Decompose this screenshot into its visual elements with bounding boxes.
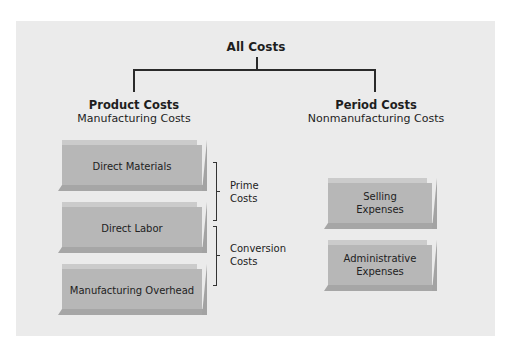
box-label: Selling Expenses — [328, 190, 432, 216]
box-administrative-expenses: Administrative Expenses — [328, 245, 432, 291]
box-selling-expenses: Selling Expenses — [328, 183, 432, 229]
period-costs-title: Period Costs — [335, 98, 417, 112]
brace-tick — [213, 220, 216, 221]
box-bevel — [324, 223, 437, 229]
tree-horizontal-connector — [133, 69, 376, 71]
root-label: All Costs — [227, 40, 286, 54]
box-bevel — [58, 185, 207, 191]
box-manufacturing-overhead: Manufacturing Overhead — [62, 269, 202, 315]
prime-costs-label: Prime Costs — [230, 179, 259, 205]
conversion-costs-label: Conversion Costs — [230, 242, 286, 268]
brace-tick — [213, 226, 216, 227]
period-costs-subtitle: Nonmanufacturing Costs — [308, 112, 445, 125]
box-label: Direct Materials — [62, 160, 202, 173]
brace-point — [217, 191, 220, 192]
box-label: Administrative Expenses — [328, 252, 432, 278]
brace-point — [217, 255, 220, 256]
box-label: Direct Labor — [62, 222, 202, 235]
box-direct-labor: Direct Labor — [62, 207, 202, 253]
box-direct-materials: Direct Materials — [62, 145, 202, 191]
conversion-costs-brace — [216, 226, 217, 286]
product-costs-title: Product Costs — [89, 98, 179, 112]
product-costs-subtitle: Manufacturing Costs — [77, 112, 190, 125]
box-bevel — [324, 285, 437, 291]
box-label: Manufacturing Overhead — [62, 284, 202, 297]
box-bevel — [58, 309, 207, 315]
left-branch-connector — [133, 69, 135, 92]
brace-tick — [213, 162, 216, 163]
box-bevel — [58, 247, 207, 253]
right-branch-connector — [374, 69, 376, 92]
brace-tick — [213, 285, 216, 286]
